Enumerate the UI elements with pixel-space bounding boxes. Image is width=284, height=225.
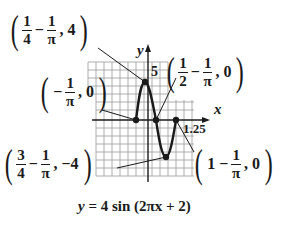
label-zero-point-1: ( − 1π , 0 ) bbox=[38, 72, 109, 112]
point-zero-1 bbox=[133, 117, 139, 123]
x-tick-label: 1.25 bbox=[183, 121, 206, 137]
label-zero-point-3: ( 1 − 1π , 0 ) bbox=[192, 144, 275, 184]
equation-lhs: y bbox=[78, 198, 85, 214]
y-axis-label: y bbox=[137, 42, 144, 59]
label-zero-point-2: ( 12 − 1π , 0 ) bbox=[164, 52, 247, 92]
y-tick-label: 5 bbox=[151, 64, 158, 80]
x-axis-label: x bbox=[214, 101, 222, 118]
point-min bbox=[163, 154, 169, 160]
label-max-point: ( 14 − 1π , 4 ) bbox=[8, 10, 91, 50]
equation-rhs: = 4 sin (2πx + 2) bbox=[88, 198, 190, 214]
label-min-point: ( 34 − 1π , −4 ) bbox=[2, 144, 94, 184]
equation-caption: y = 4 sin (2πx + 2) bbox=[78, 198, 191, 215]
point-zero-2 bbox=[153, 117, 159, 123]
y-axis-arrow-icon bbox=[145, 44, 151, 52]
point-max bbox=[142, 79, 148, 85]
point-zero-3 bbox=[173, 117, 179, 123]
